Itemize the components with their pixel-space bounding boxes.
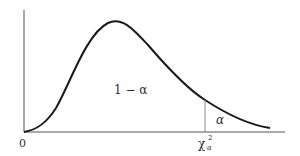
origin-label: 0 [19,137,26,150]
critical-value-label: χ 2 α [198,134,212,152]
tail-area-label: α [216,113,224,127]
svg-text:α: α [207,144,212,152]
svg-text:2: 2 [208,134,212,142]
chi-square-diagram: 1 − α α 0 χ 2 α [0,0,300,156]
central-area-label: 1 − α [114,83,147,97]
density-curve [24,21,270,132]
svg-text:χ: χ [198,137,206,151]
